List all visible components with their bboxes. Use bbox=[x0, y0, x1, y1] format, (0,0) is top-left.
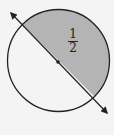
center-point bbox=[56, 60, 60, 64]
fraction-label: 1 2 bbox=[66, 29, 80, 54]
numerator: 1 bbox=[69, 27, 77, 41]
denominator: 2 bbox=[69, 41, 77, 55]
circle-diagram bbox=[0, 0, 114, 135]
